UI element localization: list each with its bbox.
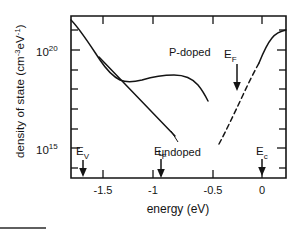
y-axis-label-close: ) [14, 24, 26, 28]
y-tick-labels: 1020 1015 [36, 44, 58, 156]
x-tick-label-0: 0 [259, 184, 265, 196]
data-curves [71, 20, 286, 144]
y-tick-label-1e20: 1020 [36, 44, 58, 58]
valence-band-edge-label: EV [76, 145, 90, 161]
curve-upper-branch-dashed [219, 63, 259, 144]
annotation-p-doped: P-doped [169, 46, 211, 58]
svg-text:density of state (cm-3eV-1): density of state (cm-3eV-1) [13, 24, 26, 158]
conduction-band-edge-arrow-head [258, 167, 266, 176]
y-tick-label-1e15: 1015 [36, 142, 58, 156]
y-axis-label: density of state (cm-3eV-1) [13, 24, 26, 158]
fermi-level-arrow-head [157, 169, 165, 178]
y-axis-label-mid: eV [14, 35, 26, 49]
x-tick-label--1.5: -1.5 [94, 184, 113, 196]
y-axis-label-sup1: -3 [13, 49, 22, 56]
y-axis-label-sup2: -1 [13, 28, 22, 35]
axis-marker-conduction-band-edge: Ec [256, 145, 268, 176]
valence-band-edge-arrow-head [79, 168, 87, 177]
x-axis-label: energy (eV) [147, 202, 210, 216]
curve-p-doped [71, 20, 208, 101]
conduction-band-edge-label: Ec [256, 145, 268, 161]
annotation-fermi-upper-group: EF [224, 48, 241, 91]
curve-undoped [99, 57, 175, 136]
annotation-fermi-upper-label: EF [224, 48, 237, 64]
x-tick-label--1: -1 [148, 184, 158, 196]
chart-canvas: density of state (cm-3eV-1) 1020 1015 [0, 0, 302, 234]
x-tick-labels: -1.5 -1 -0.5 0 [94, 184, 266, 196]
fermi-upper-arrow-head [233, 82, 241, 91]
undoped-leader-line [171, 131, 178, 142]
y-axis-label-main: density of state (cm [14, 56, 26, 158]
right-axis-ticks [277, 30, 286, 168]
axis-marker-valence-band-edge: EV [76, 145, 90, 177]
curve-upper-branch-solid [259, 30, 286, 63]
density-of-states-figure: density of state (cm-3eV-1) 1020 1015 [0, 0, 302, 234]
x-tick-label--0.5: -0.5 [204, 184, 223, 196]
